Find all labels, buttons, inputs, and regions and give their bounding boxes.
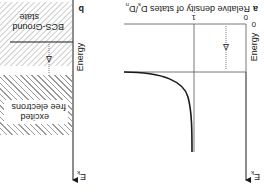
panel-b-gap-label: Δ [46,54,52,64]
panel-b-excited-label-2: free electrons [11,102,66,112]
panel-a-energy-label: Energy [249,33,259,62]
panel-b-excited-label-1: excited [20,112,49,122]
title-sub-s: s [138,2,141,8]
ek-sub-b: k [77,170,80,176]
panel-a-letter: a [253,4,258,14]
panel-a-dos-curve [124,72,192,152]
panel-a-y-tick-0: 0 [252,19,256,29]
panel-b-letter: b [79,4,85,14]
ek-symbol: E [254,172,260,182]
panel-a-x-tick-1: 1 [192,12,196,22]
title-slash: /D [129,4,138,14]
panel-b-energy-label: Energy [75,43,85,72]
title-sub-n: n [126,2,129,8]
panel-b-ground-label-2: state [19,12,39,22]
panel-a-x-tick-0: 0 [244,12,248,22]
panel-b-ground-label-1: BCS-Ground [12,22,64,32]
ek-sub: k [251,170,254,176]
panel-a-title: Relative density of states Ds/Dn [126,0,250,14]
panel-a-gap-label: Δ [223,42,229,52]
figure-rotated: a Relative density of states Ds/Dn 0 1 0… [0,0,264,192]
ek-symbol-b: E [80,172,86,182]
panel-a-ek-label: Ek [251,168,260,182]
panel-b-ek-label: Ek [77,168,86,182]
